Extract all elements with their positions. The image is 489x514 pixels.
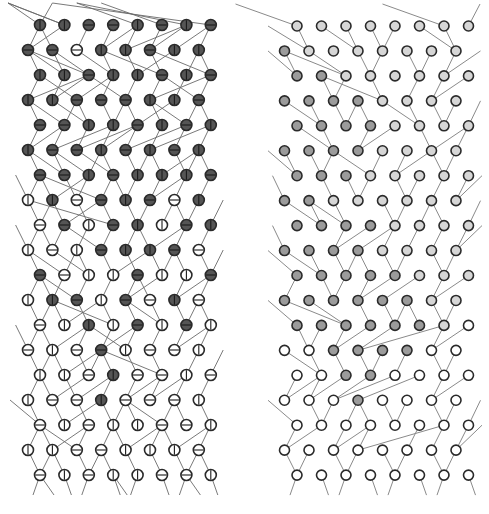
lattice-node (415, 420, 425, 430)
lattice-node (132, 70, 143, 81)
lattice-node (23, 145, 34, 156)
lattice-node (292, 171, 302, 181)
lattice-edge (236, 4, 298, 26)
lattice-node (439, 271, 449, 281)
lattice-node (96, 195, 107, 206)
lattice-node (292, 221, 302, 231)
lattice-node (59, 270, 70, 281)
lattice-node (71, 445, 82, 456)
lattice-node (292, 121, 302, 131)
lattice-node (439, 21, 449, 31)
lattice-node (83, 320, 94, 331)
lattice-node (59, 320, 70, 331)
lattice-node (304, 295, 314, 305)
lattice-node (427, 345, 437, 355)
lattice-node (317, 370, 327, 380)
lattice-edge (52, 325, 88, 350)
lattice-node (35, 220, 46, 231)
lattice-edge (40, 275, 77, 300)
lattice-node (132, 470, 143, 481)
lattice-node (108, 370, 119, 381)
lattice-node (157, 170, 168, 181)
lattice-node (464, 271, 474, 281)
lattice-node (390, 71, 400, 81)
lattice-node (451, 146, 461, 156)
lattice-node (59, 370, 70, 381)
lattice-node (145, 295, 156, 306)
lattice-node (402, 46, 412, 56)
lattice-edge (52, 250, 88, 275)
lattice-node (108, 320, 119, 331)
lattice-node (193, 345, 204, 356)
lattice-edge (309, 201, 346, 226)
lattice-edge (285, 251, 322, 276)
lattice-node (353, 146, 363, 156)
lattice-node (157, 20, 168, 31)
lattice-node (47, 345, 58, 356)
lattice-edge (28, 250, 64, 275)
right-nodes (280, 21, 474, 480)
lattice-node (193, 45, 204, 56)
lattice-node (341, 171, 351, 181)
lattice-node (83, 120, 94, 131)
lattice-edge (432, 126, 469, 151)
lattice-node (280, 445, 290, 455)
lattice-node (439, 420, 449, 430)
lattice-node (317, 171, 327, 181)
lattice-node (317, 21, 327, 31)
lattice-node (366, 71, 376, 81)
lattice-node (427, 46, 437, 56)
lattice-node (47, 445, 58, 456)
lattice-edge (358, 325, 395, 350)
lattice-node (390, 370, 400, 380)
lattice-node (427, 96, 437, 106)
lattice-node (47, 145, 58, 156)
lattice-node (378, 46, 388, 56)
lattice-node (390, 271, 400, 281)
lattice-node (366, 21, 376, 31)
lattice-node (23, 345, 34, 356)
lattice-node (329, 96, 339, 106)
lattice-node (83, 270, 94, 281)
lattice-node (35, 120, 46, 131)
lattice-edge (150, 225, 186, 250)
lattice-node (35, 320, 46, 331)
lattice-node (341, 320, 351, 330)
lattice-node (353, 395, 363, 405)
lattice-edge (174, 325, 210, 350)
lattice-node (366, 470, 376, 480)
lattice-node (23, 45, 34, 56)
lattice-node (415, 221, 425, 231)
lattice-node (464, 320, 474, 330)
lattice-node (402, 196, 412, 206)
lattice-node (157, 120, 168, 131)
lattice-figure (0, 0, 489, 514)
lattice-node (317, 221, 327, 231)
lattice-node (59, 220, 70, 231)
lattice-node (292, 370, 302, 380)
lattice-node (120, 45, 131, 56)
lattice-node (378, 395, 388, 405)
lattice-node (427, 196, 437, 206)
lattice-node (193, 145, 204, 156)
lattice-node (157, 420, 168, 431)
lattice-node (341, 420, 351, 430)
lattice-node (157, 470, 168, 481)
lattice-node (35, 270, 46, 281)
lattice-node (353, 246, 363, 256)
lattice-node (193, 95, 204, 106)
lattice-node (145, 445, 156, 456)
lattice-node (366, 271, 376, 281)
lattice-node (402, 146, 412, 156)
lattice-node (108, 170, 119, 181)
lattice-node (353, 345, 363, 355)
lattice-node (415, 370, 425, 380)
lattice-node (205, 220, 216, 231)
lattice-node (193, 395, 204, 406)
lattice-node (353, 46, 363, 56)
lattice-node (304, 395, 314, 405)
lattice-node (132, 170, 143, 181)
lattice-node (280, 146, 290, 156)
lattice-node (35, 20, 46, 31)
lattice-node (464, 71, 474, 81)
